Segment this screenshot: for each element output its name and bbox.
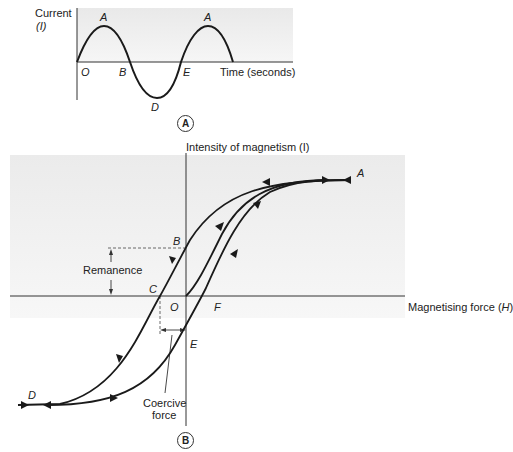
panel-b-point-b: B: [173, 236, 180, 247]
coercive-leader-line: [165, 335, 172, 393]
panel-a-x-label: Time (seconds): [220, 67, 295, 78]
panel-b-chart: [10, 153, 405, 426]
panel-a-y-label-line1: Current: [35, 8, 72, 19]
panel-a-point-a1: A: [100, 12, 107, 23]
panel-a-point-e: E: [183, 67, 190, 78]
panel-b-point-a: A: [357, 168, 364, 179]
panel-b-point-d: D: [28, 390, 36, 401]
panel-a-point-o: O: [81, 67, 90, 78]
panel-b-point-e: E: [190, 339, 197, 350]
remanence-label: Remanence: [83, 265, 142, 276]
panel-b-badge: B: [177, 432, 194, 449]
panel-b-x-label-suffix: ): [510, 301, 513, 313]
coercive-label-line2: force: [152, 410, 176, 421]
panel-a-y-label-line2: (I): [36, 21, 46, 32]
coercive-label-line1: Coercive: [143, 398, 186, 409]
panel-b-point-c: C: [149, 284, 157, 295]
panel-a-point-a2: A: [204, 12, 211, 23]
panel-a-point-b: B: [119, 67, 126, 78]
panel-b-y-label: Intensity of magnetism (I): [186, 142, 310, 153]
panel-b-x-label-var: H: [502, 301, 510, 313]
panel-b-x-label: Magnetising force (H): [408, 302, 513, 313]
panel-b-point-o: O: [170, 302, 179, 313]
panel-a-chart: [77, 8, 293, 100]
panel-b-x-label-prefix: Magnetising force (: [408, 301, 502, 313]
panel-a-badge: A: [177, 115, 194, 132]
panel-b-point-f: F: [214, 302, 221, 313]
panel-a-point-d: D: [151, 102, 159, 113]
